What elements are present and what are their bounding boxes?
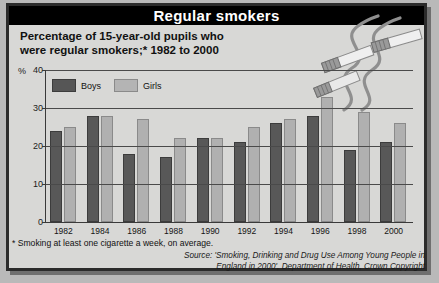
y-axis-labels: 010203040	[14, 70, 43, 223]
source-line-1: Source: 'Smoking, Drinking and Drug Use …	[155, 250, 425, 261]
subtitle-line-1: Percentage of 15-year-old pupils who	[20, 29, 320, 43]
bar-girls	[321, 97, 333, 222]
gridline	[45, 146, 413, 147]
gridline	[45, 108, 413, 109]
x-axis-tick-label: 1988	[156, 226, 190, 236]
legend-swatch-boys	[52, 79, 76, 92]
x-axis-tick-label: 2000	[377, 226, 411, 236]
bar-boys	[50, 131, 62, 222]
x-axis-line	[45, 222, 413, 223]
x-axis-tick-label: 1990	[193, 226, 227, 236]
bar-girls	[64, 127, 76, 222]
bar-girls	[174, 138, 186, 222]
bar-girls	[358, 112, 370, 222]
bar-boys	[123, 154, 135, 222]
subtitle-line-2: were regular smokers;* 1982 to 2000	[20, 43, 320, 57]
y-axis-tick-label: 30	[14, 103, 43, 113]
x-axis-tick-label: 1984	[83, 226, 117, 236]
source-line-2: England in 2000', Department of Health, …	[155, 261, 425, 272]
x-axis-tick-label: 1986	[120, 226, 154, 236]
x-axis-tick-label: 1998	[340, 226, 374, 236]
bar-girls	[284, 119, 296, 222]
y-axis-tick	[42, 108, 46, 109]
bar-boys	[234, 142, 246, 222]
legend-swatch-girls	[114, 79, 138, 92]
bar-girls	[394, 123, 406, 222]
y-axis-tick	[42, 146, 46, 147]
source-note: Source: 'Smoking, Drinking and Drug Use …	[155, 250, 425, 272]
bar-boys	[160, 157, 172, 222]
y-axis-tick-label: 0	[14, 217, 43, 227]
bar-girls	[101, 116, 113, 222]
chart-legend: Boys Girls	[52, 79, 170, 92]
chart-screenshot: Regular smokers Percentage of 15-year-ol…	[0, 0, 439, 283]
legend-label-girls: Girls	[143, 81, 162, 91]
y-axis-tick-label: 10	[14, 179, 43, 189]
gridline	[45, 184, 413, 185]
y-axis-tick-label: 40	[14, 65, 43, 75]
legend-label-boys: Boys	[81, 81, 101, 91]
bar-boys	[307, 116, 319, 222]
bar-girls	[137, 119, 149, 222]
chart-subtitle: Percentage of 15-year-old pupils who wer…	[20, 29, 320, 57]
x-axis-tick-label: 1982	[46, 226, 80, 236]
bar-boys	[270, 123, 282, 222]
gridline	[45, 70, 413, 71]
bar-chart: 1982198419861988199019921994199619982000	[45, 70, 413, 223]
x-axis-tick-label: 1992	[230, 226, 264, 236]
footnote: * Smoking at least one cigarette a week,…	[12, 238, 213, 248]
y-axis-tick	[42, 222, 46, 223]
x-axis-tick-label: 1996	[303, 226, 337, 236]
bar-boys	[380, 142, 392, 222]
y-axis-tick	[42, 184, 46, 185]
bar-boys	[87, 116, 99, 222]
y-axis-tick-label: 20	[14, 141, 43, 151]
bar-girls	[248, 127, 260, 222]
bar-boys	[197, 138, 209, 222]
y-axis-tick	[42, 70, 46, 71]
bar-boys	[344, 150, 356, 222]
x-axis-tick-label: 1994	[267, 226, 301, 236]
bar-girls	[211, 138, 223, 222]
